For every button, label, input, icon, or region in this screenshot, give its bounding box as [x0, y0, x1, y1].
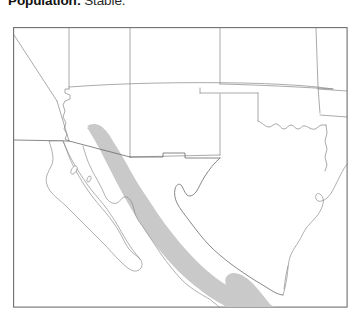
- range-map-figure: [13, 27, 348, 308]
- population-status-caption: Population:Stable.: [8, 0, 125, 11]
- population-label: Population:: [8, 0, 81, 8]
- population-status-value: Stable.: [84, 0, 125, 8]
- range-map-canvas: [13, 27, 348, 308]
